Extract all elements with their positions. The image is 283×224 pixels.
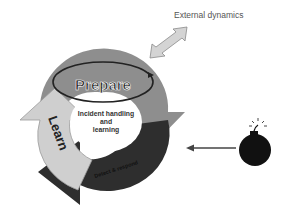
- incoming-arrow-icon: [186, 145, 236, 152]
- double-arrow-icon: [150, 27, 187, 58]
- center-label-line-2: and: [70, 118, 142, 126]
- center-label: Incident handling and learning: [70, 110, 142, 134]
- prepare-label: Prepare: [75, 76, 131, 93]
- external-dynamics-label: External dynamics: [174, 10, 243, 20]
- center-label-line-1: Incident handling: [70, 110, 142, 118]
- bomb-icon: [239, 118, 271, 166]
- center-label-line-3: learning: [70, 126, 142, 134]
